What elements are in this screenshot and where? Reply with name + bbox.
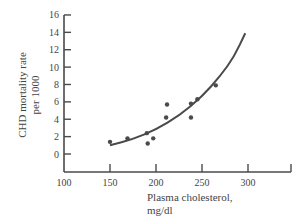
y-tick-label: 12 <box>49 44 59 55</box>
data-point <box>125 136 129 140</box>
data-point <box>189 115 193 119</box>
axes: 0246810121416100150200250300 <box>49 9 291 188</box>
data-point <box>189 101 193 105</box>
data-point <box>108 140 112 144</box>
x-axis-title-line-2: mg/dl <box>147 204 173 216</box>
x-tick-label: 150 <box>103 177 118 188</box>
y-tick-label: 0 <box>54 149 59 160</box>
y-tick-label: 16 <box>49 9 59 20</box>
x-tick-label: 100 <box>57 177 72 188</box>
chart: 0246810121416100150200250300 CHD mortali… <box>0 0 308 224</box>
y-axis-title-line-1: CHD mortality rate <box>16 52 28 138</box>
axis-labels: CHD mortality rateper 1000Plasma cholest… <box>16 52 233 216</box>
data-points <box>108 83 218 146</box>
y-tick-label: 6 <box>54 96 59 107</box>
data-point <box>195 97 199 101</box>
data-point <box>146 141 150 145</box>
y-axis-title-line-2: per 1000 <box>29 75 41 114</box>
data-point <box>214 83 218 87</box>
y-tick-label: 8 <box>54 79 59 90</box>
x-tick-label: 300 <box>241 177 256 188</box>
x-tick-label: 250 <box>195 177 210 188</box>
data-point <box>151 136 155 140</box>
y-tick-label: 4 <box>54 114 59 125</box>
y-axis-title: CHD mortality rateper 1000 <box>16 52 41 138</box>
data-point <box>145 131 149 135</box>
data-point <box>164 115 168 119</box>
x-tick-label: 200 <box>149 177 164 188</box>
y-tick-label: 2 <box>54 131 59 142</box>
fitted-curve-path <box>110 33 245 145</box>
y-tick-label: 14 <box>49 27 59 38</box>
data-point <box>165 102 169 106</box>
x-axis-title-line-1: Plasma cholesterol, <box>147 191 233 203</box>
y-tick-label: 10 <box>49 62 59 73</box>
fitted-curve <box>110 33 245 145</box>
